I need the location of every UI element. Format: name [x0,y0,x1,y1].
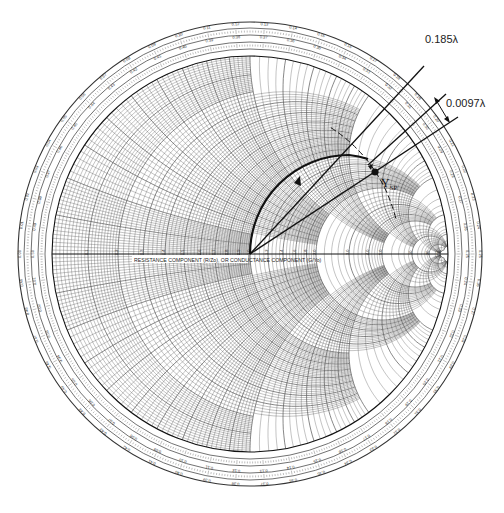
svg-text:0.37: 0.37 [260,34,269,40]
svg-text:0.30: 0.30 [422,122,431,132]
svg-text:0.01: 0.01 [18,220,24,229]
svg-text:0.50: 0.50 [30,249,35,258]
svg-text:3.0: 3.0 [345,249,350,255]
line-label-0185: 0.185λ [425,33,458,45]
svg-text:0.27: 0.27 [470,307,477,317]
svg-text:0.32: 0.32 [384,82,394,91]
svg-text:0.44: 0.44 [87,100,97,110]
svg-text:0.28: 0.28 [460,334,468,344]
svg-text:0.40: 0.40 [174,469,184,476]
svg-text:0.25: 0.25 [465,250,470,259]
svg-text:0.25: 0.25 [478,250,483,259]
point-label-ysp: YSP [381,176,397,192]
svg-text:10: 10 [408,250,413,255]
svg-text:0.3: 0.3 [139,249,144,255]
svg-text:0.24: 0.24 [476,221,482,230]
svg-text:0.38: 0.38 [232,34,241,40]
svg-text:0.38: 0.38 [231,481,240,487]
svg-text:0.12: 0.12 [232,468,241,474]
svg-text:0.14: 0.14 [289,24,298,31]
svg-text:0.03: 0.03 [32,164,40,174]
svg-text:0.37: 0.37 [260,481,269,487]
svg-text:0.29: 0.29 [437,145,446,155]
svg-text:0.13: 0.13 [260,21,269,27]
svg-text:0.11: 0.11 [204,464,213,470]
svg-text:0.26: 0.26 [476,279,482,288]
svg-text:2.0: 2.0 [312,249,317,255]
svg-text:0.18: 0.18 [383,417,393,426]
svg-text:0.45: 0.45 [70,121,79,131]
svg-text:0.36: 0.36 [286,37,295,44]
svg-text:0.31: 0.31 [404,101,414,111]
svg-text:0.48: 0.48 [36,195,43,205]
svg-text:20: 20 [425,250,430,255]
smith-chart: 0.000.500.010.490.020.480.030.470.040.46… [0,0,504,513]
svg-text:0.22: 0.22 [448,330,456,340]
svg-text:0.06: 0.06 [86,398,96,408]
svg-text:0.23: 0.23 [457,304,464,314]
svg-text:1.6: 1.6 [292,249,297,255]
svg-text:0.10: 0.10 [178,457,188,464]
svg-text:0.04: 0.04 [55,353,64,363]
svg-text:0.6: 0.6 [197,249,202,255]
svg-text:0.42: 0.42 [129,66,139,75]
svg-text:0.46: 0.46 [55,144,64,154]
svg-text:50: 50 [436,250,441,255]
svg-text:0.15: 0.15 [317,31,327,38]
svg-text:1.4: 1.4 [279,249,284,255]
svg-text:0.09: 0.09 [152,447,162,455]
svg-text:1.2: 1.2 [264,249,269,255]
svg-text:0.33: 0.33 [362,66,372,75]
svg-text:0.12: 0.12 [231,21,240,27]
svg-text:0.20: 0.20 [421,377,430,387]
svg-text:0.13: 0.13 [259,468,268,474]
svg-text:0.5: 0.5 [180,249,185,255]
svg-text:0.07: 0.07 [106,417,116,426]
svg-text:0.26: 0.26 [463,223,469,232]
svg-text:0.9: 0.9 [236,249,241,255]
svg-text:0.49: 0.49 [31,222,37,231]
svg-text:0.24: 0.24 [463,277,469,286]
svg-text:0.2: 0.2 [114,249,119,255]
svg-text:4.0: 4.0 [365,249,370,255]
svg-text:RESISTANCE COMPONENT (R/Zo), O: RESISTANCE COMPONENT (R/Zo), OR CONDUCTA… [134,257,322,263]
svg-text:0.17: 0.17 [361,433,371,442]
svg-text:0.01: 0.01 [31,276,37,285]
point-label-y: Y [381,176,390,190]
svg-text:0.41: 0.41 [147,458,157,466]
svg-text:0.21: 0.21 [436,354,445,364]
point-label-sub: SP [390,184,398,192]
svg-text:0.16: 0.16 [344,42,354,50]
svg-text:0.08: 0.08 [128,433,138,442]
svg-text:0.39: 0.39 [202,477,211,484]
svg-text:0.00: 0.00 [17,249,22,258]
svg-text:0.02: 0.02 [23,192,30,202]
svg-text:0.34: 0.34 [338,53,348,61]
svg-text:0.49: 0.49 [18,278,24,287]
svg-text:0.35: 0.35 [313,44,323,51]
svg-text:0.8: 0.8 [224,249,229,255]
svg-text:0.47: 0.47 [44,169,52,179]
svg-text:0.05: 0.05 [69,377,78,387]
line-label-00097: 0.0097λ [446,97,485,109]
svg-text:0.4: 0.4 [161,249,166,255]
svg-text:0.43: 0.43 [107,82,117,91]
svg-text:0.1: 0.1 [84,249,89,255]
svg-text:1.8: 1.8 [303,249,308,255]
svg-text:0.7: 0.7 [211,249,216,255]
svg-text:5.0: 5.0 [378,249,383,255]
svg-text:0.19: 0.19 [404,398,414,408]
